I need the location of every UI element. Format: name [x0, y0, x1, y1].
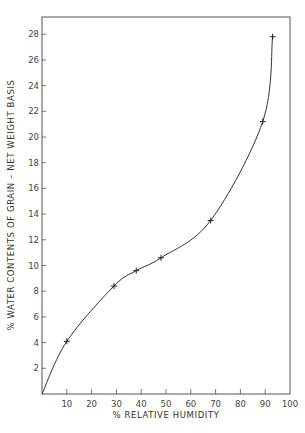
x-tick-label: 30 — [111, 399, 122, 409]
plus-marker-icon — [64, 338, 70, 344]
x-tick-label: 90 — [260, 399, 271, 409]
plus-marker-icon — [158, 255, 164, 261]
x-axis-ticks: 102030405060708090100 — [61, 389, 298, 409]
y-tick-label: 18 — [28, 158, 39, 168]
y-tick-label: 6 — [34, 312, 39, 322]
y-tick-label: 26 — [28, 55, 39, 65]
x-tick-label: 70 — [210, 399, 221, 409]
y-tick-label: 12 — [28, 235, 39, 245]
y-tick-label: 28 — [28, 29, 39, 39]
data-markers — [64, 34, 276, 345]
plot-frame — [42, 17, 290, 394]
x-tick-label: 80 — [235, 399, 246, 409]
y-tick-label: 16 — [28, 183, 39, 193]
plus-marker-icon — [270, 34, 276, 40]
y-axis-ticks: 246810121416182022242628 — [28, 29, 46, 373]
x-tick-label: 10 — [61, 399, 72, 409]
y-tick-label: 22 — [28, 106, 39, 116]
y-tick-label: 2 — [34, 363, 39, 373]
y-tick-label: 14 — [28, 209, 39, 219]
y-tick-label: 20 — [28, 132, 39, 142]
chart: 246810121416182022242628 102030405060708… — [0, 0, 305, 433]
y-axis-label: % WATER CONTENTS OF GRAIN – NET WEIGHT B… — [6, 79, 16, 330]
x-tick-label: 40 — [136, 399, 147, 409]
data-curve — [42, 37, 273, 394]
y-tick-label: 24 — [28, 81, 39, 91]
x-tick-label: 20 — [86, 399, 97, 409]
x-tick-label: 50 — [161, 399, 172, 409]
plus-marker-icon — [133, 268, 139, 274]
y-tick-label: 8 — [34, 286, 39, 296]
plus-marker-icon — [260, 119, 266, 125]
x-axis-label: % RELATIVE HUMIDITY — [112, 410, 219, 420]
plot-border — [42, 17, 290, 394]
x-tick-label: 100 — [282, 399, 298, 409]
x-tick-label: 60 — [185, 399, 196, 409]
y-tick-label: 10 — [28, 261, 39, 271]
y-tick-label: 4 — [34, 338, 39, 348]
